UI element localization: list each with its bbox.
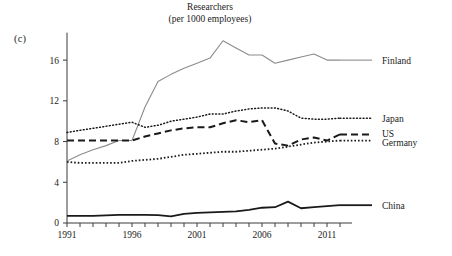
x-tick-label: 2001 xyxy=(188,230,207,240)
legend-label-japan: Japan xyxy=(382,114,404,124)
legend-label-china: China xyxy=(382,201,405,211)
series-line-us xyxy=(67,120,340,145)
y-tick-label: 8 xyxy=(54,137,59,147)
x-tick-label: 1996 xyxy=(123,230,142,240)
chart-legend: FinlandJapanUSGermanyChina xyxy=(382,56,418,211)
series-line-finland xyxy=(67,41,340,161)
line-chart-plot: 0481216 19911996200120062011 FinlandJapa… xyxy=(0,0,452,256)
y-tick-label: 12 xyxy=(50,96,60,106)
series-line-japan xyxy=(67,108,340,132)
legend-label-germany: Germany xyxy=(382,138,418,148)
series-line-china xyxy=(67,202,340,217)
series-line-germany xyxy=(67,141,340,163)
y-axis-ticks: 0481216 xyxy=(50,56,68,229)
x-tick-label: 2006 xyxy=(253,230,272,240)
y-tick-label: 4 xyxy=(54,178,59,188)
legend-label-finland: Finland xyxy=(382,56,411,66)
x-axis-ticks: 19911996200120062011 xyxy=(58,223,341,240)
x-tick-label: 2011 xyxy=(318,230,337,240)
y-tick-label: 0 xyxy=(54,218,59,228)
y-tick-label: 16 xyxy=(50,56,60,66)
figure-panel-c: (c) Researchers (per 1000 employees) 048… xyxy=(0,0,452,256)
chart-series-group xyxy=(67,41,372,217)
x-tick-label: 1991 xyxy=(58,230,77,240)
